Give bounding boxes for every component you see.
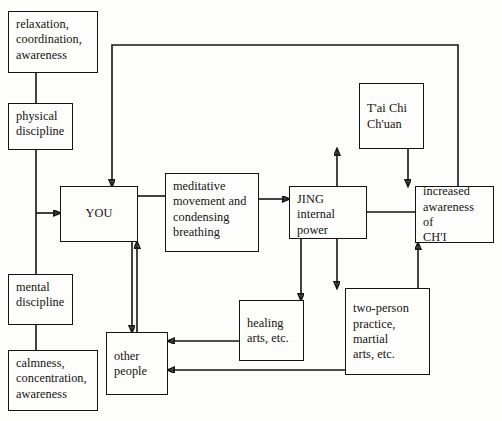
node-you[interactable]: YOU [60, 186, 138, 242]
node-physical-discipline[interactable]: physical discipline [8, 103, 73, 150]
node-relaxation[interactable]: relaxation, coordination, awareness [8, 11, 98, 73]
node-jing-internal-power[interactable]: JING internal power [289, 186, 367, 239]
diagram-canvas: relaxation, coordination, awareness phys… [0, 0, 502, 421]
node-other-people[interactable]: other people [106, 332, 168, 395]
node-two-person-practice[interactable]: two-person practice, martial arts, etc. [345, 288, 430, 375]
node-tai-chi-chuan[interactable]: T'ai Chi Ch'uan [359, 83, 424, 149]
node-calmness[interactable]: calmness, concentration, awareness [8, 350, 98, 411]
node-healing-arts[interactable]: healing arts, etc. [239, 300, 304, 361]
node-meditative-movement[interactable]: meditative movement and condensing breat… [165, 173, 259, 252]
node-increased-awareness-chi[interactable]: increased awareness of CH'I [415, 186, 494, 243]
node-mental-discipline[interactable]: mental discipline [8, 274, 73, 325]
